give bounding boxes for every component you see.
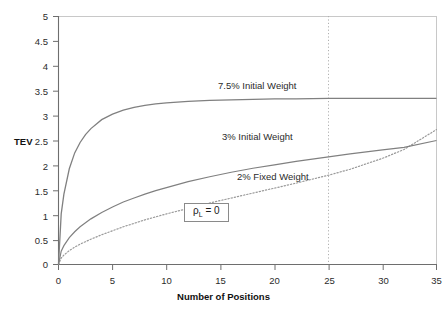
y-axis-title: TEV [14, 137, 32, 147]
y-tick-label-3-5: 3.5 [20, 87, 48, 97]
y-axis-ticks [53, 17, 58, 265]
x-tick-label-5: 5 [98, 276, 127, 286]
y-tick-label-1-5: 1.5 [20, 187, 48, 197]
y-tick-label-3: 3 [20, 112, 48, 122]
x-tick-label-10: 10 [152, 276, 181, 286]
correlation-parameter-annotation: ρL = 0 [184, 203, 229, 222]
series-annotation-2pct-fixed-weight: 2% Fixed Weight [237, 172, 309, 182]
x-axis-ticks [59, 265, 437, 270]
x-axis-title: Number of Positions [0, 292, 447, 302]
y-tick-label-0: 0 [20, 260, 48, 270]
y-tick-label-0-5: 0.5 [20, 236, 48, 246]
x-tick-label-0: 0 [44, 276, 73, 286]
y-tick-label-1: 1 [20, 212, 48, 222]
x-tick-label-30: 30 [369, 276, 398, 286]
plot-canvas [0, 0, 447, 311]
rho-value: = 0 [205, 205, 219, 216]
series-annotation-3pct-initial-weight: 3% Initial Weight [222, 132, 293, 142]
rho-subscript: L [199, 211, 203, 218]
x-tick-label-35: 35 [422, 276, 447, 286]
series-annotation-7-5pct-initial-weight: 7.5% Initial Weight [218, 81, 297, 91]
chart-figure: 5 4.5 4 3.5 3 2.5 2 1.5 1 0.5 0 TEV 0 5 … [0, 0, 447, 311]
y-tick-label-4-5: 4.5 [20, 37, 48, 47]
x-tick-label-25: 25 [315, 276, 344, 286]
y-tick-label-2: 2 [20, 162, 48, 172]
y-tick-label-5: 5 [20, 12, 48, 22]
x-tick-label-20: 20 [260, 276, 289, 286]
x-tick-label-15: 15 [206, 276, 235, 286]
y-tick-label-4: 4 [20, 62, 48, 72]
